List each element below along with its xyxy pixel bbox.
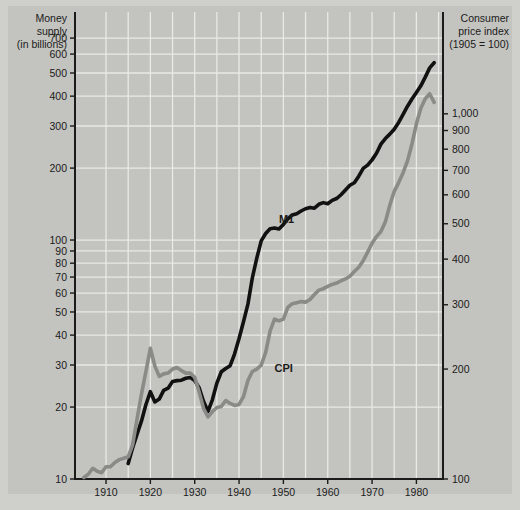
tick-labels: 1020304050607080901002003004005006007001… — [49, 32, 478, 498]
series-line-cpi — [84, 94, 434, 478]
right-axis-tick-label: 100 — [452, 473, 470, 485]
x-axis-tick-label: 1920 — [139, 486, 163, 498]
left-axis-tick-label: 200 — [49, 162, 67, 174]
tick-marks — [70, 38, 448, 484]
right-axis-title-line: (1905 = 100) — [449, 38, 509, 50]
right-axis-tick-label: 800 — [452, 143, 470, 155]
left-axis-tick-label: 60 — [55, 287, 67, 299]
right-axis-tick-label: 900 — [452, 124, 470, 136]
left-axis-tick-label: 20 — [55, 401, 67, 413]
left-axis-title-line: (in billions) — [17, 38, 67, 50]
right-axis-tick-label: 600 — [452, 188, 470, 200]
x-axis-tick-label: 1930 — [183, 486, 207, 498]
left-axis-title-line: supply — [37, 25, 68, 37]
left-axis-tick-label: 90 — [55, 245, 67, 257]
series-label-cpi: CPI — [275, 362, 293, 374]
right-axis-title-line: Consumer — [461, 12, 510, 24]
left-axis-tick-label: 500 — [49, 67, 67, 79]
right-axis-tick-label: 300 — [452, 298, 470, 310]
axis-titles: Moneysupply(in billions)Consumerprice in… — [17, 12, 510, 50]
left-axis-tick-label: 100 — [49, 234, 67, 246]
left-axis-tick-label: 10 — [55, 473, 67, 485]
x-axis-tick-label: 1970 — [360, 486, 384, 498]
right-axis-tick-label: 700 — [452, 164, 470, 176]
left-axis-tick-label: 300 — [49, 120, 67, 132]
left-axis-tick-label: 70 — [55, 271, 67, 283]
left-axis-tick-label: 80 — [55, 257, 67, 269]
left-axis-tick-label: 50 — [55, 306, 67, 318]
right-axis-tick-label: 1,000 — [452, 107, 478, 119]
right-axis-title-line: price index — [458, 25, 510, 37]
x-axis-tick-label: 1950 — [272, 486, 296, 498]
data-series — [84, 63, 434, 478]
left-axis-title-line: Money — [35, 12, 67, 24]
x-axis-tick-label: 1910 — [94, 486, 118, 498]
x-axis-tick-label: 1960 — [316, 486, 340, 498]
left-axis-tick-label: 40 — [55, 329, 67, 341]
left-axis-tick-label: 400 — [49, 90, 67, 102]
chart-figure: 1020304050607080901002003004005006007001… — [0, 0, 520, 510]
right-axis-tick-label: 400 — [452, 253, 470, 265]
series-label-m1: M1 — [279, 213, 294, 225]
money-supply-cpi-chart: 1020304050607080901002003004005006007001… — [0, 0, 520, 510]
x-axis-tick-label: 1940 — [227, 486, 251, 498]
right-axis-tick-label: 500 — [452, 217, 470, 229]
left-axis-tick-label: 30 — [55, 359, 67, 371]
x-axis-tick-label: 1980 — [405, 486, 429, 498]
right-axis-tick-label: 200 — [452, 363, 470, 375]
